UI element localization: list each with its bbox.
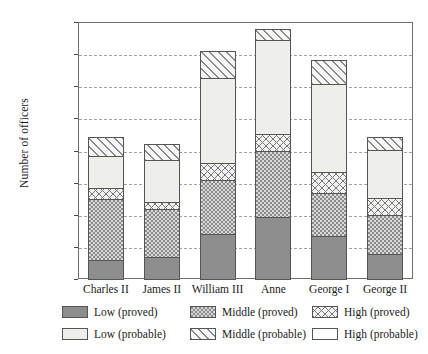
bar-segment-mid_proved bbox=[144, 209, 180, 258]
bar-segment-high_proved bbox=[311, 172, 347, 194]
bar-william-iii bbox=[200, 51, 236, 279]
bar-segment-high_proved bbox=[367, 198, 403, 217]
legend-swatch-diagonal-hatch-icon bbox=[190, 328, 216, 340]
bar-segment-mid_proved bbox=[311, 193, 347, 237]
bar-segment-low_proved bbox=[200, 234, 236, 280]
legend-swatch-crosshatch-icon bbox=[312, 306, 338, 318]
x-axis-labels: Charles IIJames IIWilliam IIIAnneGeorge … bbox=[78, 283, 413, 301]
bar-segment-mid_probable bbox=[311, 60, 347, 85]
legend-label: Middle (probable) bbox=[222, 328, 306, 340]
legend-item-middle-probable[interactable]: Middle (probable) bbox=[190, 328, 306, 340]
x-axis-label-george-ii: George II bbox=[363, 283, 407, 295]
bar-segment-mid_probable bbox=[200, 51, 236, 79]
bar-james-ii bbox=[144, 144, 180, 279]
bar-segment-high_proved bbox=[255, 134, 291, 152]
chart-legend: Low (proved)Middle (proved)High (proved)… bbox=[62, 306, 422, 350]
bar-segment-low_probable bbox=[255, 40, 291, 135]
bar-george-i bbox=[311, 60, 347, 279]
bar-segment-low_probable bbox=[144, 160, 180, 203]
bars-layer bbox=[78, 22, 413, 279]
bar-segment-low_proved bbox=[88, 260, 124, 280]
legend-item-high-proved[interactable]: High (proved) bbox=[312, 306, 409, 318]
bar-segment-low_proved bbox=[144, 257, 180, 280]
legend-swatch-stippled-gray-icon bbox=[190, 306, 216, 318]
bar-segment-low_proved bbox=[255, 217, 291, 280]
bar-segment-mid_proved bbox=[255, 151, 291, 218]
legend-swatch-solid-dark-gray-icon bbox=[62, 306, 88, 318]
bar-segment-mid_probable bbox=[367, 137, 403, 151]
legend-label: High (proved) bbox=[344, 306, 409, 318]
bar-segment-mid_proved bbox=[88, 199, 124, 261]
y-tick-mark-0 bbox=[74, 279, 78, 280]
bar-segment-mid_proved bbox=[200, 180, 236, 236]
bar-segment-high_proved bbox=[200, 163, 236, 181]
legend-item-middle-proved[interactable]: Middle (proved) bbox=[190, 306, 298, 318]
bar-segment-mid_probable bbox=[88, 137, 124, 158]
x-axis-label-anne: Anne bbox=[261, 283, 286, 295]
bar-segment-low_probable bbox=[88, 156, 124, 188]
legend-label: Middle (proved) bbox=[222, 306, 298, 318]
legend-swatch-white-icon bbox=[312, 328, 338, 340]
bar-charles-ii bbox=[88, 137, 124, 279]
bar-segment-mid_proved bbox=[367, 215, 403, 254]
bar-segment-low_probable bbox=[311, 84, 347, 172]
bar-segment-low_proved bbox=[367, 254, 403, 280]
legend-label: High (probable) bbox=[344, 328, 418, 340]
legend-item-high-probable[interactable]: High (probable) bbox=[312, 328, 418, 340]
bar-anne bbox=[255, 29, 291, 279]
legend-item-low-proved[interactable]: Low (proved) bbox=[62, 306, 158, 318]
x-axis-label-james-ii: James II bbox=[142, 283, 181, 295]
legend-label: Low (proved) bbox=[94, 306, 158, 318]
x-axis-label-george-i: George I bbox=[309, 283, 349, 295]
bar-george-ii bbox=[367, 137, 403, 279]
bar-segment-low_proved bbox=[311, 236, 347, 280]
x-axis-label-william-iii: William III bbox=[192, 283, 244, 295]
x-axis-label-charles-ii: Charles II bbox=[83, 283, 129, 295]
bar-segment-low_probable bbox=[200, 78, 236, 163]
bar-segment-mid_probable bbox=[144, 144, 180, 161]
y-axis-title: Number of officers bbox=[18, 48, 30, 238]
legend-swatch-light-gray-icon bbox=[62, 328, 88, 340]
stacked-bar-chart: Number of officers 050100150200250300350… bbox=[0, 0, 428, 354]
bar-segment-low_probable bbox=[367, 150, 403, 199]
legend-item-low-probable[interactable]: Low (probable) bbox=[62, 328, 166, 340]
legend-label: Low (probable) bbox=[94, 328, 166, 340]
